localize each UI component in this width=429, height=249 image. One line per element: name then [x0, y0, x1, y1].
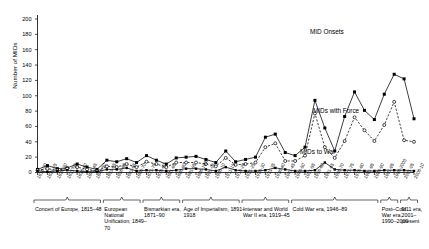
era-bracket-3	[183, 197, 240, 203]
y-tick-label: 200	[16, 16, 32, 22]
data-point	[413, 140, 416, 143]
era-bracket-5	[292, 197, 378, 203]
data-point	[343, 115, 346, 118]
y-tick-label: 20	[16, 154, 32, 160]
era-label: Bismarkian era, 1871–90	[144, 206, 187, 218]
data-point	[254, 156, 257, 159]
era-bracket-1	[103, 197, 140, 203]
mids-to-war-label: MIDs to War	[300, 148, 335, 155]
era-bracket-6	[381, 197, 398, 203]
era-bracket-7	[401, 197, 418, 203]
data-point	[393, 100, 396, 103]
data-point	[284, 151, 287, 154]
data-point	[353, 116, 356, 119]
data-point	[383, 123, 386, 126]
era-label: Cold War era, 1946–89	[293, 206, 385, 212]
data-point	[333, 156, 336, 159]
y-tick-label: 140	[16, 62, 32, 68]
data-point	[403, 139, 406, 142]
data-point	[145, 154, 148, 157]
data-point	[264, 136, 267, 139]
data-point	[244, 158, 247, 161]
era-bracket-4	[242, 197, 289, 203]
data-point	[125, 157, 128, 160]
y-tick-label: 80	[16, 108, 32, 114]
data-point	[373, 118, 376, 121]
data-point	[363, 129, 366, 132]
data-point	[224, 150, 227, 153]
era-label: Age of Imperialism, 1891–1918	[184, 206, 247, 218]
data-point	[323, 126, 326, 129]
data-point	[313, 99, 316, 102]
data-point	[264, 146, 267, 149]
data-point	[353, 90, 356, 93]
era-bracket-2	[143, 197, 180, 203]
data-point	[274, 133, 277, 136]
data-point	[105, 159, 108, 162]
data-point	[343, 140, 346, 143]
data-point	[224, 156, 227, 159]
data-point	[234, 160, 237, 163]
data-point	[284, 168, 286, 170]
era-label: Interwar and World War II era, 1919–45	[243, 206, 296, 218]
data-point	[393, 73, 396, 76]
y-tick-label: 0	[16, 169, 32, 175]
era-bracket-0	[34, 197, 100, 203]
data-point	[403, 77, 406, 80]
data-point	[175, 156, 178, 159]
data-point	[294, 159, 297, 162]
mids-with-force-label: MIDs with Force	[313, 107, 359, 114]
data-point	[363, 109, 366, 112]
y-tick-label: 100	[16, 93, 32, 99]
era-label: Concert of Europe, 1815–48	[35, 206, 107, 212]
data-point	[155, 159, 158, 162]
y-tick-label: 180	[16, 31, 32, 37]
y-tick-label: 120	[16, 77, 32, 83]
y-tick-label: 40	[16, 139, 32, 145]
mid-onsets-label: MID Onsets	[310, 28, 344, 35]
y-tick-label: 160	[16, 47, 32, 53]
y-tick-label: 60	[16, 123, 32, 129]
data-point	[195, 155, 198, 158]
data-point	[185, 156, 188, 159]
data-point	[383, 93, 386, 96]
era-label: European National Unification, 1849–70	[104, 206, 147, 231]
data-point	[373, 140, 376, 143]
data-point	[294, 154, 297, 157]
data-point	[284, 159, 287, 162]
data-point	[413, 117, 416, 120]
series-line-0	[38, 74, 415, 169]
data-point	[274, 142, 277, 145]
era-label: 9/11 era, 2001–present	[402, 206, 429, 225]
